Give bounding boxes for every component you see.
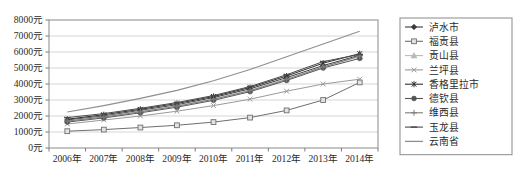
legend-item-label: 德钦县 (429, 92, 459, 104)
x-tick-label: 2011年 (236, 153, 265, 164)
marker-square (65, 129, 70, 134)
series-line (67, 54, 359, 120)
series-line (67, 57, 359, 121)
x-tick-label: 2013年 (309, 153, 338, 164)
x-tick-label: 2008年 (126, 153, 155, 164)
x-tick-label: 2007年 (89, 153, 118, 164)
y-tick-label: 4000元 (14, 78, 43, 89)
legend-item-label: 兰坪县 (429, 64, 459, 76)
marker-square (175, 123, 180, 128)
marker-square (412, 39, 417, 44)
series-1 (64, 52, 362, 122)
x-tick-label: 2010年 (199, 153, 228, 164)
x-tick-label: 2012年 (272, 153, 301, 164)
legend-item-label: 贡山县 (429, 50, 459, 61)
series-5 (65, 51, 362, 123)
axis-group: 0元1000元2000元3000元4000元5000元6000元7000元800… (14, 14, 378, 164)
line-chart-figure: 0元1000元2000元3000元4000元5000元6000元7000元800… (0, 0, 518, 181)
y-tick-label: 7000元 (14, 30, 43, 41)
series-group (64, 31, 363, 133)
y-tick-label: 8000元 (14, 14, 43, 25)
series-8 (64, 54, 363, 117)
legend-item-label: 福贡县 (429, 35, 459, 47)
legend-item-label: 泸水市 (429, 21, 459, 33)
y-tick-label: 0元 (28, 142, 43, 153)
legend-item-label: 维西县 (429, 106, 459, 118)
y-tick-label: 6000元 (14, 46, 43, 57)
series-line (67, 55, 359, 120)
legend-item-label: 云南省 (429, 135, 459, 147)
marker-circle (412, 96, 417, 101)
legend-group: 泸水市福贡县贡山县兰坪县香格里拉市德钦县维西县玉龙县云南省 (400, 18, 512, 155)
legend-item-label: 玉龙县 (429, 121, 459, 133)
marker-square (138, 125, 143, 130)
series-2 (65, 80, 362, 134)
legend-item-label: 香格里拉市 (429, 78, 479, 90)
y-tick-label: 2000元 (14, 110, 43, 121)
marker-square (211, 120, 216, 125)
marker-square (284, 108, 289, 113)
marker-square (248, 115, 253, 120)
y-tick-label: 3000元 (14, 94, 43, 105)
x-tick-label: 2014年 (345, 153, 374, 164)
x-tick-label: 2009年 (162, 153, 191, 164)
y-tick-label: 1000元 (14, 126, 43, 137)
y-tick-label: 5000元 (14, 62, 43, 73)
x-tick-label: 2006年 (53, 153, 82, 164)
chart-canvas: 0元1000元2000元3000元4000元5000元6000元7000元800… (0, 0, 518, 181)
marker-square (321, 98, 326, 103)
series-line (67, 54, 359, 117)
marker-square (101, 127, 106, 132)
